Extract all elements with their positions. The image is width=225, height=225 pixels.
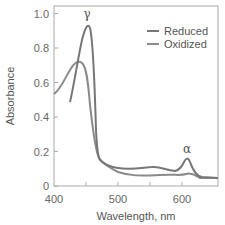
y-tick-label: 0 [43, 180, 49, 192]
y-axis-label: Absorbance [4, 67, 16, 126]
y-tick-label: 0.8 [34, 42, 49, 54]
y-tick-label: 0.2 [34, 146, 49, 158]
x-tick-label: 400 [45, 193, 63, 205]
legend-label-oxidized: Oxidized [164, 38, 207, 50]
x-tick-label: 600 [173, 193, 191, 205]
legend: Reduced Oxidized [147, 25, 208, 50]
alpha-peak-label: α [183, 142, 191, 156]
series-line-oxidized [54, 62, 218, 178]
gamma-peak-label: γ [83, 7, 90, 21]
legend-label-reduced: Reduced [164, 25, 208, 37]
y-tick-label: 0.4 [34, 111, 49, 123]
x-tick-marks [86, 182, 182, 186]
absorbance-chart: 0 0.2 0.4 0.6 0.8 1.0 400 500 600 Wavele… [0, 0, 225, 225]
y-tick-marks [54, 14, 58, 187]
y-tick-label: 1.0 [34, 8, 49, 20]
y-tick-label: 0.6 [34, 77, 49, 89]
x-tick-label: 500 [109, 193, 127, 205]
x-axis-label: Wavelength, nm [96, 210, 175, 222]
